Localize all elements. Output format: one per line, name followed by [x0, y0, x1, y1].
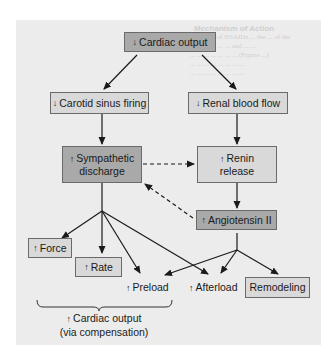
node-label: Angiotensin II: [208, 214, 272, 227]
node-label: Rate: [91, 261, 113, 274]
up-arrow-icon: ↑: [70, 154, 75, 164]
up-arrow-icon: ↑: [84, 261, 89, 274]
node-label: Carotid sinus firing: [59, 97, 146, 110]
edge-angiotensin-to-preload: [165, 250, 237, 275]
node-remodeling: Remodeling: [245, 277, 310, 298]
compensation-caption: ↑Cardiac output (via compensation): [36, 312, 172, 338]
node-label-line2: discharge: [79, 165, 125, 178]
edge-cardiac-to-renal: [202, 55, 236, 89]
node-label: Renal blood flow: [202, 97, 280, 110]
edges-layer: [0, 0, 333, 354]
down-arrow-icon: ↓: [53, 97, 58, 110]
edge-sympathetic-to-force: [62, 211, 102, 238]
down-arrow-icon: ↓: [133, 36, 138, 49]
node-sympathetic-discharge: ↑Sympathetic discharge: [62, 146, 142, 183]
edge-cardiac-to-carotid: [104, 55, 137, 89]
node-label-line1: Renin: [227, 152, 254, 164]
down-arrow-icon: ↓: [196, 97, 201, 110]
node-preload: ↑Preload: [126, 281, 169, 293]
up-arrow-icon: ↑: [67, 314, 72, 324]
caption-line2: (via compensation): [36, 326, 172, 339]
node-label: Cardiac output: [139, 36, 207, 49]
node-rate: ↑ Rate: [75, 257, 122, 277]
node-cardiac-output: ↓ Cardiac output: [124, 32, 216, 52]
compensation-brace: [37, 300, 172, 311]
up-arrow-icon: ↑: [201, 214, 206, 227]
node-renal-blood-flow: ↓ Renal blood flow: [188, 92, 288, 114]
up-arrow-icon: ↑: [189, 283, 194, 293]
up-arrow-icon: ↑: [220, 154, 225, 164]
node-label: Remodeling: [249, 281, 305, 294]
node-label: Preload: [133, 281, 169, 293]
node-label: Force: [40, 242, 67, 255]
node-renin-release: ↑Renin release: [197, 146, 277, 183]
edge-angiotensin-to-remodeling: [237, 250, 278, 274]
node-carotid-sinus-firing: ↓ Carotid sinus firing: [50, 92, 149, 114]
node-force: ↑ Force: [28, 238, 72, 258]
node-afterload: ↑Afterload: [189, 281, 238, 293]
node-angiotensin-ii: ↑ Angiotensin II: [196, 210, 277, 230]
node-label-line2: release: [220, 165, 254, 178]
node-label-line1: Sympathetic: [76, 152, 134, 164]
up-arrow-icon: ↑: [33, 242, 38, 255]
edge-angiotensin-to-sympathetic-dashed: [145, 184, 193, 218]
up-arrow-icon: ↑: [126, 283, 131, 293]
edge-angiotensin-to-afterload: [221, 250, 237, 273]
node-label: Afterload: [196, 281, 238, 293]
caption-line1: Cardiac output: [73, 312, 141, 324]
